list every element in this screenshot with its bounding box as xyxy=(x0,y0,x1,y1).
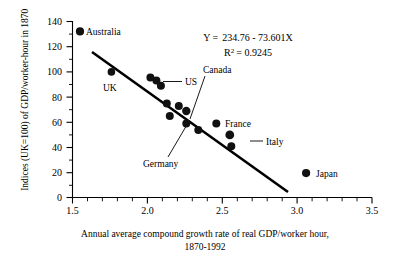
data-point-germany xyxy=(182,120,190,128)
leader-line-germany xyxy=(168,123,188,157)
data-point-france xyxy=(212,120,220,128)
y-tick-label-0: 0 xyxy=(57,192,62,203)
y-tick-label-120: 120 xyxy=(47,41,62,52)
r-squared-annotation: R2= 0.9245 xyxy=(224,47,272,59)
r-squared-superscript: 2 xyxy=(231,47,235,55)
point-label-italy: Italy xyxy=(266,137,284,147)
data-point-uk xyxy=(108,68,116,76)
point-label-japan: Japan xyxy=(316,169,338,179)
data-point xyxy=(227,142,235,150)
data-point-italy xyxy=(225,131,234,140)
point-label-canada: Canada xyxy=(203,65,232,75)
data-point-australia xyxy=(76,27,84,35)
r-squared-value: = 0.9245 xyxy=(236,47,272,58)
point-label-uk: UK xyxy=(103,83,117,93)
y-tick-label-60: 60 xyxy=(52,117,62,128)
x-tick-label-3-0: 3.0 xyxy=(291,205,304,216)
x-axis-title-line2: 1870-1992 xyxy=(40,241,370,254)
x-tick-label-2-5: 2.5 xyxy=(216,205,229,216)
y-tick-label-100: 100 xyxy=(47,66,62,77)
data-point xyxy=(163,99,171,107)
data-point-japan xyxy=(302,169,310,177)
data-point xyxy=(194,126,202,134)
equation-rhs: 234.76 - 73.601X xyxy=(222,32,293,43)
regression-equation: Y =234.76 - 73.601X xyxy=(203,32,293,43)
data-point-canada xyxy=(182,107,190,115)
point-label-australia: Australia xyxy=(86,27,122,37)
data-point xyxy=(166,112,174,120)
x-axis-title-line1: Annual average compound growth rate of r… xyxy=(40,228,370,241)
y-tick-label-40: 40 xyxy=(52,142,62,153)
chart-figure: 140 120 100 80 60 40 20 0 1.5 2.0 2.5 3.… xyxy=(0,0,401,267)
x-axis-title: Annual average compound growth rate of r… xyxy=(40,228,370,254)
data-point xyxy=(175,102,183,110)
data-point xyxy=(157,82,165,90)
regression-line xyxy=(92,52,288,192)
x-tick-label-3-5: 3.5 xyxy=(366,205,379,216)
x-tick-label-1-5: 1.5 xyxy=(66,205,79,216)
point-label-france: France xyxy=(225,119,251,129)
y-tick-label-20: 20 xyxy=(52,167,62,178)
y-tick-label-140: 140 xyxy=(47,16,62,27)
point-label-us: US xyxy=(185,77,197,87)
point-label-germany: Germany xyxy=(143,159,179,169)
x-tick-label-2-0: 2.0 xyxy=(141,205,154,216)
y-tick-label-80: 80 xyxy=(52,92,62,103)
equation-lhs: Y = xyxy=(203,32,218,43)
data-points xyxy=(76,27,310,177)
y-axis-title: Indices (UK=100) of GDP/worker-hour in 1… xyxy=(21,0,31,202)
scatter-plot: 140 120 100 80 60 40 20 0 1.5 2.0 2.5 3.… xyxy=(0,0,401,267)
